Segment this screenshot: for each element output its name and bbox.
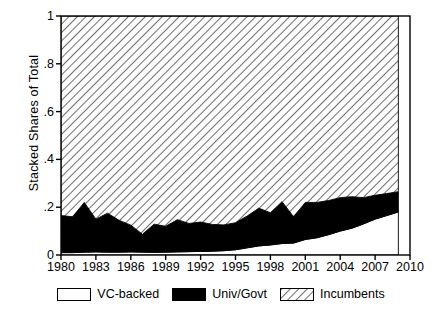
legend-swatch-solid-icon (172, 288, 206, 301)
legend-item[interactable]: Univ/Govt (172, 288, 267, 301)
x-axis-tick-labels: 1980198319861989199219951998200120042007… (0, 260, 442, 278)
legend-swatch-hatch-icon (280, 288, 314, 301)
legend-label: Univ/Govt (212, 288, 267, 301)
stacked-areas (61, 16, 398, 255)
chart-legend: VC-backedUniv/GovtIncumbents (0, 288, 442, 301)
legend-item[interactable]: VC-backed (57, 288, 159, 301)
legend-label: VC-backed (97, 288, 159, 301)
legend-swatch-empty-icon (57, 288, 91, 301)
chart-figure: Stacked Shares of Total 0.2.4.6.81 19801… (0, 0, 442, 317)
x-tick-label: 2010 (387, 260, 433, 274)
legend-item[interactable]: Incumbents (280, 288, 385, 301)
legend-label: Incumbents (320, 288, 385, 301)
